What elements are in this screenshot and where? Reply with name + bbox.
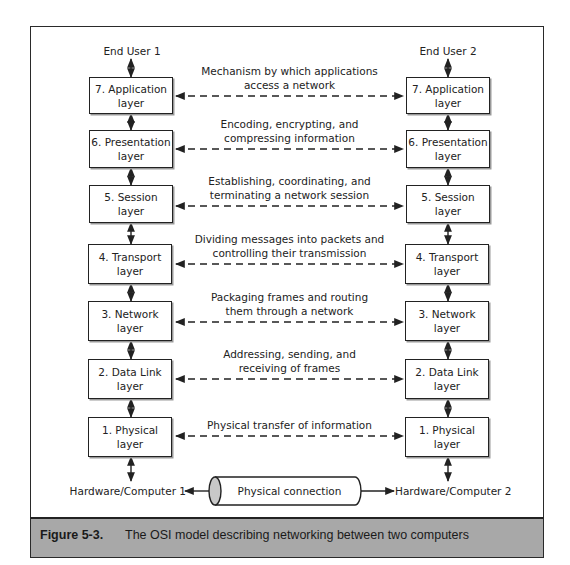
description-line: terminating a network session [176,188,403,202]
layer-label: layer [435,96,461,110]
description-line: Physical transfer of information [176,418,403,432]
layer-label: 1. Physical layer [406,423,488,451]
end-user-2-label: End User 2 [406,44,490,58]
application-description: Mechanism by which applications access a… [176,64,403,92]
layer-label: 7. Application [95,82,167,96]
description-line: Dividing messages into packets and [176,232,403,246]
transport-description: Dividing messages into packets and contr… [176,232,403,260]
layer-label: 6. Presentation [91,135,170,149]
layer-label: 1. Physical layer [89,423,171,451]
description-line: compressing information [176,131,403,145]
session-description: Establishing, coordinating, and terminat… [176,174,403,202]
description-line: access a network [176,78,403,92]
layer-label: 4. Transport layer [406,250,488,278]
description-line: Encoding, encrypting, and [176,117,403,131]
data-link-description: Addressing, sending, and receiving of fr… [176,347,403,375]
network-description: Packaging frames and routing them throug… [176,290,403,318]
left-presentation-layer: 6. Presentation layer [89,130,173,168]
description-line: Mechanism by which applications [176,64,403,78]
left-transport-layer: 4. Transport layer [88,244,172,284]
hardware-computer-1-label: Hardware/Computer 1 [68,484,186,498]
layer-label: 7. Application [412,82,484,96]
left-physical-layer: 1. Physical layer [88,417,172,457]
layer-label: 4. Transport layer [89,250,171,278]
layer-label: layer [118,96,144,110]
layer-label: 5. Session layer [407,190,489,218]
left-network-layer: 3. Network layer [88,301,172,341]
physical-description: Physical transfer of information [176,418,403,432]
description-line: Addressing, sending, and [176,347,403,361]
right-physical-layer: 1. Physical layer [405,417,489,457]
caption-text: The OSI model describing networking betw… [125,528,469,542]
layer-label: layer [118,149,144,163]
layer-label: 5. Session layer [90,190,172,218]
description-line: Packaging frames and routing [176,290,403,304]
figure-number: Figure 5-3. [40,528,103,542]
figure-caption: Figure 5-3. The OSI model describing net… [30,517,544,558]
description-line: receiving of frames [176,361,403,375]
right-network-layer: 3. Network layer [405,301,489,341]
layer-label: 6. Presentation [408,135,487,149]
layer-label: 2. Data Link layer [406,365,488,393]
left-application-layer: 7. Application layer [89,77,173,114]
left-data-link-layer: 2. Data Link layer [88,359,172,399]
layer-label: layer [435,149,461,163]
description-line: Establishing, coordinating, and [176,174,403,188]
description-line: controlling their transmission [176,246,403,260]
right-application-layer: 7. Application layer [406,77,490,114]
hardware-computer-2-label: Hardware/Computer 2 [395,484,525,498]
layer-label: 2. Data Link layer [89,365,171,393]
left-session-layer: 5. Session layer [89,185,173,223]
description-line: them through a network [176,304,403,318]
presentation-description: Encoding, encrypting, and compressing in… [176,117,403,145]
right-presentation-layer: 6. Presentation layer [406,130,490,168]
physical-connection-label: Physical connection [222,484,357,498]
right-transport-layer: 4. Transport layer [405,244,489,284]
right-data-link-layer: 2. Data Link layer [405,359,489,399]
layer-label: 3. Network layer [89,307,171,335]
right-session-layer: 5. Session layer [406,185,490,223]
end-user-1-label: End User 1 [90,44,174,58]
layer-label: 3. Network layer [406,307,488,335]
